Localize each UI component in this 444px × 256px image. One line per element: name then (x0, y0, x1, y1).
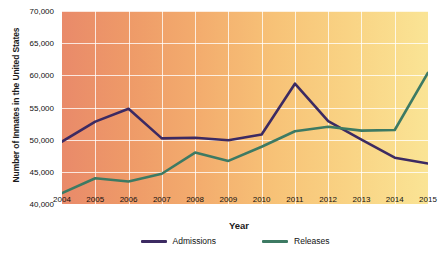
y-axis-tick-label: 70,000 (0, 7, 54, 16)
x-axis-title: Year (0, 220, 444, 231)
legend-item-admissions[interactable]: Admissions (141, 236, 216, 246)
y-axis-tick-label: 55,000 (0, 103, 54, 112)
x-axis-tick-label: 2015 (408, 195, 444, 204)
legend-label: Admissions (173, 236, 216, 246)
series-line-releases (62, 73, 428, 193)
y-axis-tick-label: 60,000 (0, 71, 54, 80)
legend-swatch-admissions (141, 240, 167, 243)
series-layer (62, 11, 428, 204)
legend-swatch-releases (262, 240, 288, 243)
y-axis-tick-label: 65,000 (0, 39, 54, 48)
plot-area (62, 11, 428, 204)
legend-item-releases[interactable]: Releases (262, 236, 329, 246)
plot-inner (62, 11, 428, 204)
y-axis-tick-label: 45,000 (0, 167, 54, 176)
x-axis-title-text: Year (195, 220, 249, 231)
series-line-admissions (62, 84, 428, 164)
chart-legend: AdmissionsReleases (0, 236, 444, 246)
y-axis-tick-label: 50,000 (0, 135, 54, 144)
legend-label: Releases (294, 236, 329, 246)
chart-container: Number of Inmates in the United States 4… (0, 0, 444, 256)
